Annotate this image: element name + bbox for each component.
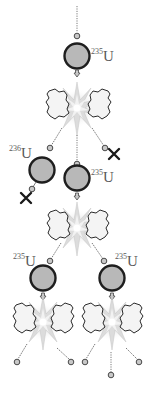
- fission-event-3-left: [13, 296, 74, 350]
- released-neutrons-1: [47, 128, 119, 167]
- element-symbol: U: [103, 169, 114, 185]
- fission-chain-diagram: [0, 0, 156, 400]
- fission-fragment-icon: [51, 303, 74, 333]
- fission-fragment-icon: [13, 303, 36, 333]
- element-symbol: U: [25, 253, 36, 269]
- nucleus-u235-gen3-left: [31, 266, 56, 301]
- element-symbol: U: [21, 145, 32, 161]
- arrow-down-icon: [74, 193, 80, 200]
- fission-event-3-right: [82, 296, 143, 350]
- isotope-label-u235-gen1: 235U: [91, 49, 114, 64]
- mass-number: 236: [9, 144, 21, 153]
- fission-fragment-icon: [88, 89, 111, 119]
- absorbed-x-icon: [109, 149, 119, 159]
- arrow-down-icon: [74, 70, 80, 77]
- fission-event-1: [46, 82, 111, 136]
- incoming-neutron-path: [74, 6, 80, 39]
- nucleus-u236-gen2: [21, 158, 55, 204]
- fission-fragment-icon: [86, 210, 109, 240]
- isotope-label-u235-gen3-left: 235U: [13, 254, 36, 269]
- isotope-label-u235-gen3-right: 235U: [115, 254, 138, 269]
- fission-fragment-icon: [120, 303, 143, 333]
- mass-number: 235: [91, 168, 103, 177]
- nucleus-u235-gen2: [65, 166, 90, 201]
- element-symbol: U: [103, 48, 114, 64]
- fission-fragment-icon: [82, 303, 105, 333]
- isotope-label-u236-gen2: 236U: [9, 146, 32, 161]
- fission-fragment-icon: [47, 210, 70, 240]
- released-neutrons-3: [14, 344, 142, 378]
- mass-number: 235: [115, 252, 127, 261]
- absorbed-x-icon: [21, 193, 31, 203]
- neutron-icon: [74, 33, 80, 39]
- isotope-label-u235-gen2: 235U: [91, 170, 114, 185]
- fission-event-2: [47, 202, 109, 256]
- mass-number: 235: [91, 47, 103, 56]
- element-symbol: U: [127, 253, 138, 269]
- fission-fragment-icon: [46, 89, 69, 119]
- nucleus-u235-gen3-right: [100, 266, 125, 301]
- nucleus-u235-gen1: [65, 44, 90, 78]
- mass-number: 235: [13, 252, 25, 261]
